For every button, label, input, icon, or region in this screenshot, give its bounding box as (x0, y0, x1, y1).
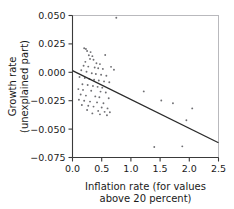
y-tick-label: 0.025 (38, 38, 65, 49)
data-point (97, 110, 99, 112)
data-point (98, 96, 100, 98)
data-point (185, 119, 187, 121)
data-point (96, 101, 98, 103)
data-point (99, 113, 101, 115)
data-point (87, 84, 89, 86)
data-point (92, 85, 94, 87)
data-point (83, 47, 85, 49)
data-point (84, 61, 86, 63)
y-tick-label: −0.050 (30, 124, 65, 135)
data-point (85, 48, 87, 50)
data-point (160, 100, 162, 102)
data-point (106, 114, 108, 116)
data-point (110, 66, 112, 68)
data-point (79, 76, 81, 78)
data-point (90, 51, 92, 53)
data-point (103, 102, 105, 104)
data-point (89, 58, 91, 60)
data-point (87, 66, 89, 68)
x-tick-label: 2.5 (211, 163, 226, 174)
data-point (83, 65, 85, 67)
y-tick-label: −0.075 (30, 152, 65, 163)
data-point (172, 102, 174, 104)
y-axis-title: Growth rate (unexplained part) (7, 40, 30, 133)
x-axis-title-line2: above 20 percent) (100, 193, 192, 204)
data-point (94, 95, 96, 97)
data-point (86, 109, 88, 111)
data-point (95, 62, 97, 64)
data-point (86, 71, 88, 73)
x-axis-title: Inflation rate (for values above 20 perc… (85, 181, 206, 204)
axes (69, 16, 219, 162)
data-point (104, 111, 106, 113)
data-point (91, 112, 93, 114)
chart-canvas: 0.0500.0250.000−0.025−0.050−0.075 0.00.5… (0, 0, 234, 209)
data-point (87, 105, 89, 107)
data-point (82, 89, 84, 91)
x-tick-label: 0.5 (94, 163, 109, 174)
data-point (81, 104, 83, 106)
data-point (94, 67, 96, 69)
data-point (77, 88, 79, 90)
data-point (93, 106, 95, 108)
data-point (100, 74, 102, 76)
data-point (153, 146, 155, 148)
data-point (107, 107, 109, 109)
data-point (93, 59, 95, 61)
scatter-plot-figure: 0.0500.0250.000−0.025−0.050−0.075 0.00.5… (0, 0, 234, 209)
data-point (88, 54, 90, 56)
data-point (97, 86, 99, 88)
data-point (80, 94, 82, 96)
data-point (99, 63, 101, 65)
data-point (100, 91, 102, 93)
data-point (97, 67, 99, 69)
data-point (80, 69, 82, 71)
data-point (109, 111, 111, 113)
data-point (83, 100, 85, 102)
data-point (115, 17, 117, 19)
data-point (113, 69, 115, 71)
y-axis-title-line2: (unexplained part) (19, 40, 30, 133)
y-tick-label: 0.000 (38, 67, 65, 78)
x-axis-tick-labels: 0.00.51.01.52.02.5 (65, 163, 226, 174)
data-point (86, 50, 88, 52)
data-point (95, 73, 97, 75)
data-point (101, 107, 103, 109)
x-tick-label: 1.5 (153, 163, 168, 174)
data-point (105, 92, 107, 94)
data-point (101, 87, 103, 89)
data-point (85, 95, 87, 97)
y-tick-label: −0.025 (30, 95, 65, 106)
data-point (105, 75, 107, 77)
x-tick-label: 0.0 (65, 163, 80, 174)
data-point (90, 90, 92, 92)
data-points (77, 17, 193, 148)
data-point (81, 83, 83, 85)
data-point (181, 145, 183, 147)
data-point (91, 72, 93, 74)
data-point (102, 68, 104, 70)
plot-frame (73, 16, 219, 158)
data-point (104, 54, 106, 56)
y-axis-title-line1: Growth rate (7, 57, 18, 117)
data-point (191, 107, 193, 109)
data-point (98, 80, 100, 82)
y-tick-label: 0.050 (38, 10, 65, 21)
plot-frame-box (73, 16, 219, 158)
y-axis-ticks (69, 16, 73, 158)
data-point (143, 90, 145, 92)
data-point (108, 97, 110, 99)
data-point (103, 80, 105, 82)
y-axis-tick-labels: 0.0500.0250.000−0.025−0.050−0.075 (30, 10, 65, 163)
x-axis-title-line1: Inflation rate (for values (85, 181, 206, 192)
x-tick-label: 2.0 (182, 163, 197, 174)
data-point (108, 81, 110, 83)
data-point (78, 99, 80, 101)
x-tick-label: 1.0 (123, 163, 138, 174)
x-axis-ticks (73, 158, 219, 162)
data-point (91, 55, 93, 57)
data-point (89, 101, 91, 103)
